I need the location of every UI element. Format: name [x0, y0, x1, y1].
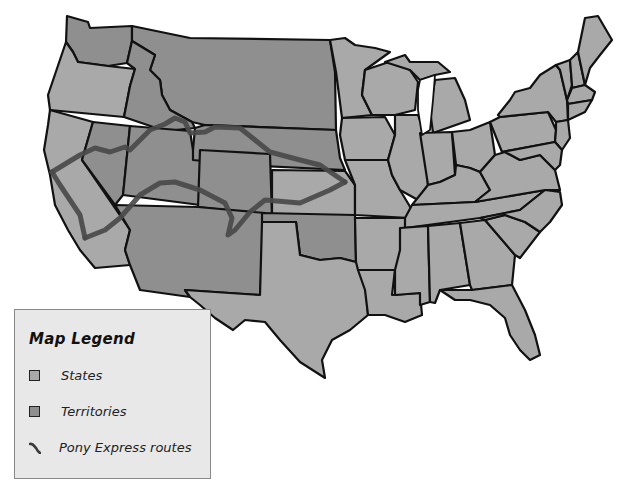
region-maine	[578, 16, 612, 85]
region-florida	[440, 285, 540, 360]
legend-label-routes: Pony Express routes	[59, 440, 191, 455]
region-kansas	[272, 170, 355, 215]
region-michigan-lower	[430, 78, 470, 133]
region-connecticut-ri	[568, 100, 592, 120]
legend-item-routes: Pony Express routes	[29, 440, 191, 455]
territory-swatch-icon	[29, 406, 40, 417]
state-swatch-icon	[29, 370, 40, 381]
legend-item-states: States	[29, 368, 102, 383]
map-legend: Map Legend States Territories Pony Expre…	[14, 309, 211, 479]
legend-label-states: States	[61, 368, 102, 383]
legend-item-territories: Territories	[29, 404, 126, 419]
route-line-icon	[29, 442, 41, 454]
legend-label-territories: Territories	[61, 404, 126, 419]
region-new-york	[498, 65, 568, 122]
region-utah	[123, 126, 205, 205]
legend-title: Map Legend	[29, 330, 135, 348]
region-iowa	[340, 117, 395, 160]
region-mississippi	[395, 226, 430, 305]
